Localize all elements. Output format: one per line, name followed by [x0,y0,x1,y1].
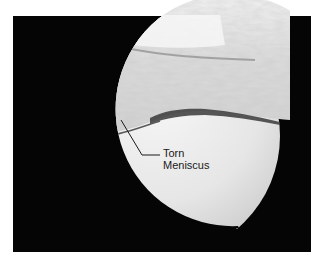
annotation-label: Torn Meniscus [163,147,209,171]
annotation-line2: Meniscus [163,159,209,171]
arthroscopic-image [0,0,325,265]
annotation-line1: Torn [163,147,209,159]
scope-view [30,0,290,258]
